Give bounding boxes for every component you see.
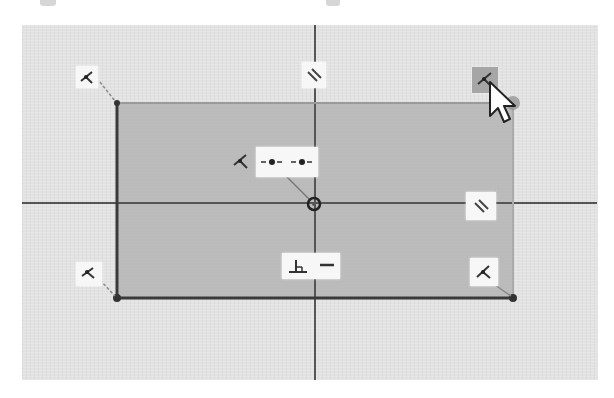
- coincident-icon: [231, 152, 251, 172]
- parallel-icon: [472, 197, 490, 215]
- window-edge-fragment-left: [40, 0, 56, 6]
- corner-point-top-left[interactable]: [114, 100, 120, 106]
- constraint-badge-midpoint-center[interactable]: Midpoint: [256, 147, 318, 177]
- leader-line: [100, 280, 115, 296]
- perpendicular-icon: [287, 257, 309, 275]
- coincident-icon: [80, 265, 98, 283]
- constraint-badge-coincident-center[interactable]: Coincident: [228, 150, 254, 174]
- parallel-icon: [305, 66, 323, 84]
- midpoint-icon: [259, 155, 315, 169]
- mouse-pointer-icon: [488, 80, 518, 126]
- origin-point-dot: [312, 202, 316, 206]
- leader-line: [100, 82, 115, 101]
- constraint-badge-coincident-bottom-right[interactable]: Coincident: [470, 258, 498, 286]
- constraint-label: Perpendicular: [311, 266, 312, 267]
- constraint-badge-perpendicular-horizontal-bottom[interactable]: Perpendicular Horizontal: [282, 253, 340, 279]
- constraint-badge-parallel-right[interactable]: Parallel: [466, 192, 496, 220]
- constraint-badge-parallel-top[interactable]: Parallel: [302, 62, 326, 88]
- constraint-badge-coincident-bottom-left[interactable]: Coincident: [76, 262, 102, 286]
- constraint-label: Horizontal: [311, 266, 312, 267]
- window-edge-fragment-right: [326, 0, 340, 6]
- horizontal-icon: [318, 257, 336, 275]
- coincident-icon: [78, 68, 96, 86]
- constraint-badge-coincident-top-left[interactable]: Coincident: [76, 66, 98, 88]
- coincident-icon: [474, 262, 494, 282]
